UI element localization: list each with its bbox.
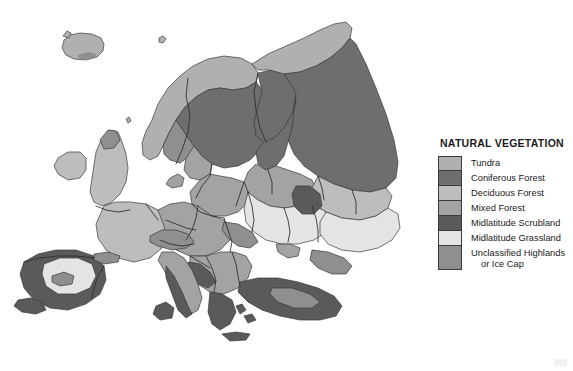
legend-item-tundra: Tundra: [438, 156, 570, 171]
map-canvas: [0, 0, 430, 371]
legend-label-midlatitude-grassland: Midlatitude Grassland: [462, 231, 561, 244]
legend-item-midlatitude-grassland: Midlatitude Grassland: [438, 231, 570, 246]
legend-item-list: Tundra Coniferous Forest Deciduous Fores…: [438, 156, 570, 270]
legend-item-coniferous-forest: Coniferous Forest: [438, 171, 570, 186]
legend-swatch-deciduous-forest: [438, 186, 462, 201]
legend-swatch-midlatitude-scrubland: [438, 216, 462, 231]
legend-swatch-midlatitude-grassland: [438, 231, 462, 246]
natural-vegetation-map-figure: NATURAL VEGETATION Tundra Coniferous For…: [0, 0, 573, 371]
legend-item-unclassified-highlands: Unclassified Highlandsor Ice Cap: [438, 246, 570, 270]
legend-title: NATURAL VEGETATION: [440, 137, 570, 149]
legend-label-coniferous-forest: Coniferous Forest: [462, 171, 545, 184]
legend-label-unclassified-highlands: Unclassified Highlandsor Ice Cap: [462, 246, 565, 270]
legend-label-midlatitude-scrubland: Midlatitude Scrubland: [462, 216, 560, 229]
legend-swatch-unclassified-highlands: [438, 246, 462, 270]
legend-swatch-coniferous-forest: [438, 171, 462, 186]
map-legend: NATURAL VEGETATION Tundra Coniferous For…: [438, 137, 570, 270]
legend-label-mixed-forest: Mixed Forest: [462, 201, 525, 214]
legend-label-unclassified-highlands-line1: Unclassified Highlands: [471, 248, 565, 258]
legend-label-tundra: Tundra: [462, 156, 500, 169]
legend-label-unclassified-highlands-line2: or Ice Cap: [471, 259, 565, 270]
legend-label-deciduous-forest: Deciduous Forest: [462, 186, 544, 199]
legend-swatch-tundra: [438, 156, 462, 171]
scan-corner-artifact: [554, 359, 567, 366]
legend-item-mixed-forest: Mixed Forest: [438, 201, 570, 216]
legend-item-midlatitude-scrubland: Midlatitude Scrubland: [438, 216, 570, 231]
legend-swatch-mixed-forest: [438, 201, 462, 216]
europe-map-svg: [0, 0, 430, 371]
legend-item-deciduous-forest: Deciduous Forest: [438, 186, 570, 201]
